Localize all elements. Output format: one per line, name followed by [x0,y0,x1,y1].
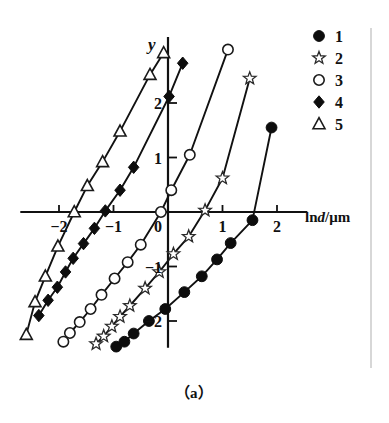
x-axis-tick-label: −2 [50,218,67,235]
series-layer [20,44,277,352]
open-circle-marker-icon [109,273,119,283]
x-axis-tick-label: 0 [154,218,162,235]
x-axis-tick-label: 1 [219,218,227,235]
filled-diamond-marker-icon [177,57,188,69]
x-axis-title-prefix: ln [305,209,318,225]
open-circle-marker-icon [156,207,166,217]
legend-label-1: 1 [335,28,343,45]
open-circle-marker-icon [223,44,233,54]
x-axis-title: lnd/μm [305,209,351,225]
filled-circle-marker-icon [225,238,236,249]
figure-caption: （a） [175,384,214,401]
x-axis-tick-label: 2 [273,218,281,235]
open-star-marker-icon [243,72,256,84]
legend-label-2: 2 [335,50,343,67]
filled-diamond-icon [314,96,325,108]
x-axis-title-units: /μm [324,209,351,225]
series-3 [58,44,233,347]
filled-circle-marker-icon [266,122,277,133]
legend-item-1: 1 [314,28,343,45]
open-circle-marker-icon [185,150,195,160]
filled-diamond-marker-icon [60,266,71,278]
open-triangle-marker-icon [81,180,93,191]
filled-circle-icon [314,31,325,42]
open-circle-marker-icon [85,304,95,314]
legend: 12345 [313,28,343,133]
legend-label-5: 5 [335,116,343,133]
open-triangle-marker-icon [144,68,156,79]
legend-item-4: 4 [314,94,343,111]
open-triangle-marker-icon [20,328,32,339]
filled-circle-marker-icon [128,328,139,339]
legend-item-5: 5 [313,116,343,133]
open-triangle-marker-icon [114,125,126,136]
filled-diamond-marker-icon [164,90,175,102]
series-3-line [63,50,228,342]
legend-label-3: 3 [335,72,343,89]
open-circle-marker-icon [136,240,146,250]
open-star-marker-icon [182,230,195,242]
open-triangle-marker-icon [97,156,109,167]
y-axis-tick-label: 1 [154,150,162,167]
y-axis-tick-label: −2 [145,313,162,330]
open-star-marker-icon [216,172,229,184]
open-triangle-marker-icon [52,240,64,251]
y-axis-tick-label: 2 [154,95,162,112]
legend-item-3: 3 [314,72,343,89]
y-axis-tick-label: −1 [145,259,162,276]
series-1-line [116,128,271,347]
open-circle-marker-icon [65,328,75,338]
open-star-icon [313,51,326,63]
axes-layer [20,37,307,348]
filled-circle-marker-icon [119,336,130,347]
open-triangle-marker-icon [39,270,51,281]
filled-circle-marker-icon [179,287,190,298]
filled-circle-marker-icon [212,254,223,265]
series-5 [20,47,169,340]
open-triangle-marker-icon [29,296,41,307]
scatter-plot: −2−1012−2−112 y lnd/μm 12345 （a） [0,0,389,423]
open-circle-icon [314,75,324,85]
legend-label-4: 4 [335,94,343,111]
open-circle-marker-icon [166,185,176,195]
y-axis-title: y [146,35,156,54]
filled-circle-marker-icon [196,271,207,282]
legend-item-2: 2 [313,50,343,67]
open-triangle-icon [313,118,325,129]
figure-container: −2−1012−2−112 y lnd/μm 12345 （a） [0,0,389,423]
open-circle-marker-icon [75,317,85,327]
open-star-marker-icon [199,204,212,216]
open-circle-marker-icon [96,290,106,300]
open-circle-marker-icon [122,257,132,267]
series-2 [90,72,256,349]
filled-circle-marker-icon [247,215,258,226]
x-axis-tick-label: −1 [105,218,122,235]
